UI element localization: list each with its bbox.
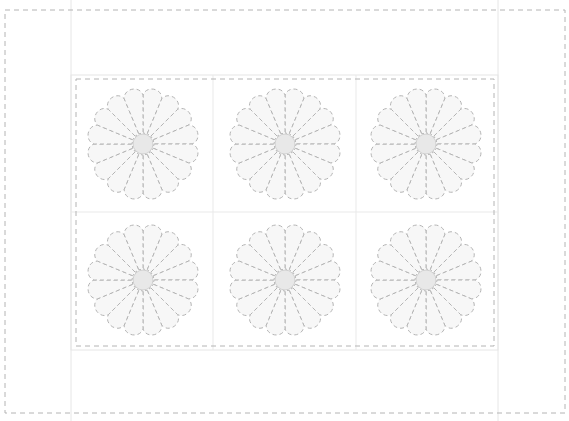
flower-block-5 <box>230 225 340 335</box>
quilt-diagram <box>0 0 569 421</box>
flower-block-2 <box>230 89 340 199</box>
flower-center <box>133 134 153 154</box>
quilt-frame <box>5 0 565 421</box>
flower-block-3 <box>371 89 481 199</box>
flower-center <box>133 270 153 290</box>
flower-block-1 <box>88 89 198 199</box>
flower-center <box>275 134 295 154</box>
flower-center <box>275 270 295 290</box>
flower-center <box>416 134 436 154</box>
flower-center <box>416 270 436 290</box>
flower-block-4 <box>88 225 198 335</box>
flower-block-6 <box>371 225 481 335</box>
